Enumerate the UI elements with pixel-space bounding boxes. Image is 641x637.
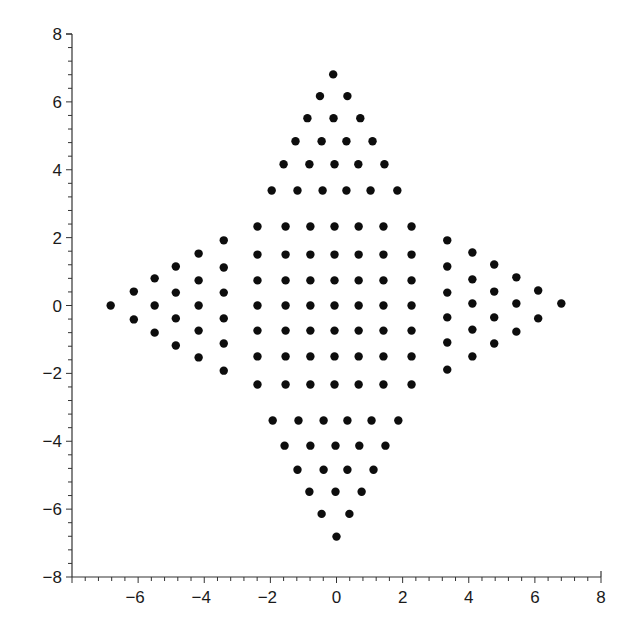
x-tick-label: 4 — [464, 588, 473, 607]
data-point — [253, 301, 261, 309]
data-point — [330, 380, 338, 388]
data-point — [330, 276, 338, 284]
data-point — [357, 488, 365, 496]
data-point — [106, 301, 114, 309]
data-point — [343, 466, 351, 474]
data-point — [172, 288, 180, 296]
right-triangle-series — [443, 236, 565, 374]
data-point — [354, 352, 362, 360]
data-point — [332, 532, 340, 540]
data-point — [150, 328, 158, 336]
data-point — [343, 92, 351, 100]
data-point — [407, 352, 415, 360]
data-point — [393, 186, 401, 194]
data-point — [330, 301, 338, 309]
scatter-plot: 86420−2−4−6−8 −6−4−202468 — [0, 0, 641, 637]
y-tick-label: 8 — [53, 25, 62, 44]
y-tick-label: −8 — [43, 568, 62, 587]
x-tick-label: −6 — [125, 588, 144, 607]
data-point — [305, 160, 313, 168]
data-point — [281, 380, 289, 388]
y-tick-label: 4 — [53, 161, 62, 180]
data-point — [306, 380, 314, 388]
y-tick-label: 6 — [53, 93, 62, 112]
data-point — [253, 352, 261, 360]
data-point — [306, 250, 314, 258]
data-point — [366, 186, 374, 194]
data-point — [379, 222, 387, 230]
data-point — [172, 262, 180, 270]
data-points — [106, 70, 565, 541]
data-point — [194, 326, 202, 334]
x-axis-tick-labels: −6−4−202468 — [125, 588, 605, 607]
data-point — [512, 327, 520, 335]
data-point — [354, 380, 362, 388]
data-point — [306, 352, 314, 360]
data-point — [557, 299, 565, 307]
data-point — [343, 416, 351, 424]
data-point — [512, 273, 520, 281]
y-axis-ticks — [66, 34, 72, 577]
data-point — [490, 287, 498, 295]
data-point — [253, 276, 261, 284]
data-point — [490, 313, 498, 321]
y-tick-label: −2 — [43, 364, 62, 383]
data-point — [368, 137, 376, 145]
data-point — [512, 299, 520, 307]
data-point — [329, 70, 337, 78]
y-tick-label: −6 — [43, 500, 62, 519]
data-point — [281, 250, 289, 258]
data-point — [468, 248, 476, 256]
data-point — [303, 114, 311, 122]
data-point — [379, 276, 387, 284]
data-point — [318, 186, 326, 194]
data-point — [407, 380, 415, 388]
data-point — [150, 274, 158, 282]
data-point — [306, 222, 314, 230]
data-point — [267, 186, 275, 194]
data-point — [306, 276, 314, 284]
data-point — [329, 114, 337, 122]
data-point — [194, 276, 202, 284]
data-point — [342, 186, 350, 194]
data-point — [220, 366, 228, 374]
data-point — [331, 441, 339, 449]
data-point — [407, 250, 415, 258]
x-tick-label: 0 — [332, 588, 341, 607]
data-point — [281, 326, 289, 334]
data-point — [306, 326, 314, 334]
data-point — [443, 365, 451, 373]
data-point — [369, 466, 377, 474]
data-point — [130, 315, 138, 323]
data-point — [194, 249, 202, 257]
data-point — [294, 416, 302, 424]
data-point — [354, 160, 362, 168]
data-point — [354, 326, 362, 334]
x-tick-label: −2 — [258, 588, 277, 607]
x-tick-label: 6 — [530, 588, 539, 607]
data-point — [407, 276, 415, 284]
data-point — [443, 313, 451, 321]
data-point — [407, 301, 415, 309]
data-point — [194, 301, 202, 309]
left-triangle-series — [106, 236, 227, 375]
data-point — [354, 222, 362, 230]
x-axis-ticks — [72, 577, 601, 583]
data-point — [253, 222, 261, 230]
data-point — [194, 353, 202, 361]
data-point — [172, 314, 180, 322]
data-point — [316, 92, 324, 100]
data-point — [281, 222, 289, 230]
data-point — [279, 160, 287, 168]
central-square-series — [253, 222, 415, 389]
data-point — [379, 250, 387, 258]
data-point — [293, 466, 301, 474]
data-point — [354, 276, 362, 284]
y-tick-label: 2 — [53, 229, 62, 248]
data-point — [468, 275, 476, 283]
data-point — [379, 301, 387, 309]
data-point — [380, 160, 388, 168]
data-point — [367, 416, 375, 424]
data-point — [330, 250, 338, 258]
data-point — [306, 301, 314, 309]
